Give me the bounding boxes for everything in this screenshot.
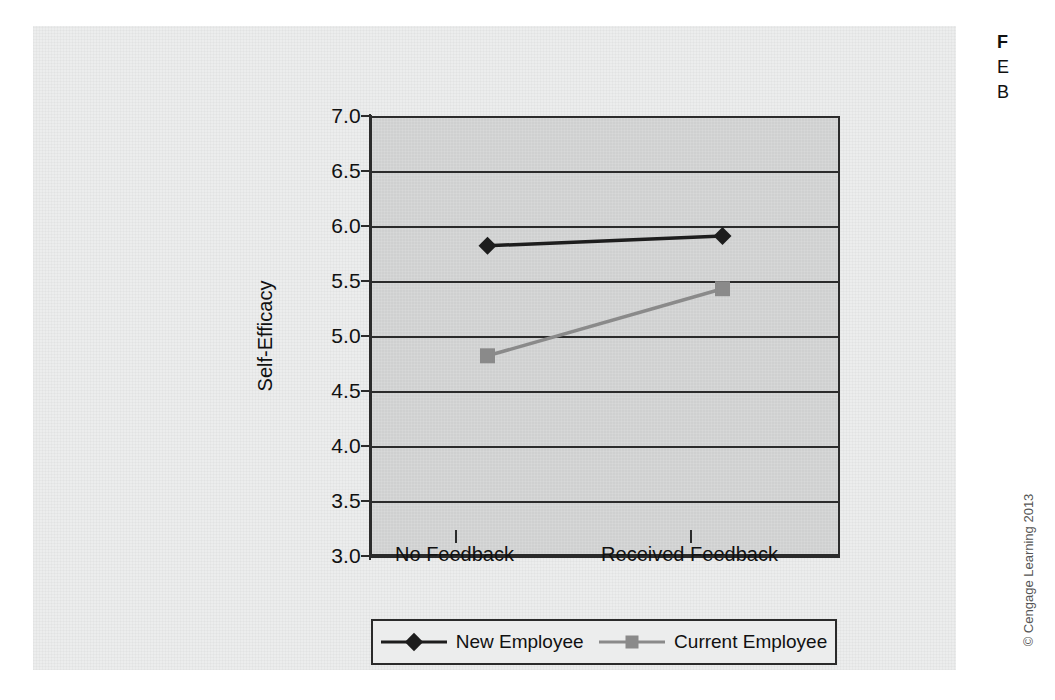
legend-entry: New Employee: [381, 631, 584, 653]
y-axis-tick-column: 3.03.54.04.55.05.56.06.57.0: [297, 116, 361, 556]
x-axis-tick-label: No Feedback: [395, 543, 514, 566]
data-point-marker: [715, 281, 730, 296]
y-axis-title: Self-Efficacy: [254, 281, 277, 392]
series-line: [488, 289, 723, 356]
legend-square-icon: [626, 636, 639, 649]
series-layer: [370, 116, 840, 556]
y-axis-tick-label: 3.0: [301, 544, 361, 568]
y-axis-tick-label: 5.5: [301, 269, 361, 293]
legend-entry: Current Employee: [599, 631, 827, 653]
x-axis-tick-mark: [455, 530, 457, 543]
copyright-credit: © Cengage Learning 2013: [1021, 494, 1036, 647]
data-point-marker: [714, 227, 732, 245]
figure-caption: F E B: [997, 30, 1055, 105]
legend-label: New Employee: [456, 631, 584, 653]
caption-line-3: B: [997, 80, 1055, 105]
y-axis-tick-label: 6.0: [301, 214, 361, 238]
y-axis-tick-label: 3.5: [301, 489, 361, 513]
series-line: [488, 236, 723, 246]
caption-line-1: F: [997, 30, 1055, 55]
y-axis-tick-label: 4.0: [301, 434, 361, 458]
legend-diamond-icon: [405, 633, 423, 651]
data-point-marker: [479, 237, 497, 255]
data-point-marker: [480, 348, 495, 363]
legend-swatch: [381, 634, 447, 650]
figure-panel: 3.03.54.04.55.05.56.06.57.0 Self-Efficac…: [33, 26, 956, 670]
y-axis-tick-label: 5.0: [301, 324, 361, 348]
chart-legend: New EmployeeCurrent Employee: [371, 619, 837, 665]
legend-swatch: [599, 634, 665, 650]
caption-line-2: E: [997, 55, 1055, 80]
x-axis-tick-label: Received Feedback: [601, 543, 778, 566]
y-axis-tick-label: 7.0: [301, 104, 361, 128]
y-axis-tick-label: 4.5: [301, 379, 361, 403]
legend-label: Current Employee: [674, 631, 827, 653]
x-axis-tick-mark: [690, 530, 692, 543]
y-axis-tick-label: 6.5: [301, 159, 361, 183]
